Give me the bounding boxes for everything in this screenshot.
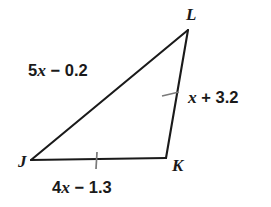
vertex-label-l: L: [186, 6, 196, 23]
vertex-label-j: J: [18, 153, 27, 170]
side-jl-variable: x: [37, 60, 46, 80]
side-jl-tail: − 0.2: [46, 61, 88, 79]
side-jk-coefficient: 4: [52, 178, 61, 196]
vertex-label-k: K: [172, 157, 183, 174]
side-jl-coefficient: 5: [28, 61, 37, 79]
side-lk-tail: + 3.2: [197, 88, 239, 106]
side-lk-variable: x: [188, 87, 197, 107]
side-jk-variable: x: [61, 177, 70, 197]
side-length-label-jk: 4x − 1.3: [52, 179, 112, 197]
side-length-label-lk: x + 3.2: [188, 89, 239, 107]
tick-mark-side-jk: [96, 152, 97, 169]
side-length-label-jl: 5x − 0.2: [28, 62, 88, 80]
geometry-figure: L J K 5x − 0.2 x + 3.2 4x − 1.3: [0, 0, 271, 207]
side-jk-tail: − 1.3: [70, 178, 112, 196]
side-jk-line: [31, 158, 166, 160]
